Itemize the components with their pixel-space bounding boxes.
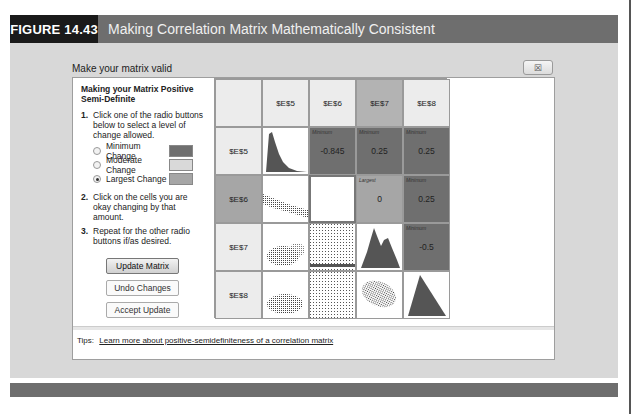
cell-value: -0.5 (419, 242, 434, 252)
row-header: $E$7 (215, 223, 262, 271)
radio-label: Moderate Change (106, 155, 169, 175)
row-header-label: $E$8 (229, 291, 248, 300)
col-header-label: $E$6 (323, 99, 342, 108)
col-header: $E$5 (262, 79, 309, 127)
histogram-cell (403, 271, 450, 319)
tips-row: Tips: Learn more about positive-semidefi… (77, 336, 333, 345)
figure-footer-bar (10, 383, 618, 397)
col-header: $E$8 (403, 79, 450, 127)
dialog-panel: Making your Matrix Positive Semi-Definit… (72, 77, 555, 360)
col-header: $E$7 (356, 79, 403, 127)
instructions-heading: Making your Matrix Positive Semi-Definit… (81, 84, 204, 104)
page-edge-rule (629, 0, 631, 414)
row-header-label: $E$5 (229, 147, 248, 156)
col-header: $E$6 (309, 79, 356, 127)
cell-tag: Minimum (312, 129, 332, 135)
step-3: 3. Repeat for the other radio buttons if… (81, 226, 204, 246)
instructions-pane: Making your Matrix Positive Semi-Definit… (73, 78, 212, 326)
step-number: 2. (81, 192, 93, 222)
histogram-cell (356, 223, 403, 271)
color-swatch-largest (169, 173, 193, 185)
step-2: 2. Click on the cells you are okay chang… (81, 192, 204, 222)
close-button[interactable]: ☒ (523, 60, 553, 75)
radio-moderate-change[interactable]: Moderate Change (93, 158, 204, 172)
color-swatch-moderate (169, 159, 193, 171)
row-header: $E$6 (215, 175, 262, 223)
cell-tag: Minimum (406, 225, 426, 231)
cell-tag: Minimum (406, 177, 426, 183)
matrix-corner (215, 79, 262, 127)
skewed-histogram (263, 128, 308, 174)
separator (73, 326, 554, 330)
scatter-plot-neg (357, 272, 402, 318)
tips-label: Tips: (77, 336, 94, 345)
scatter-plot-uniform (310, 224, 355, 270)
step-text: Click one of the radio buttons below to … (93, 110, 204, 140)
step-number: 1. (81, 110, 93, 140)
dialog-title: Make your matrix valid (72, 63, 172, 74)
matrix-cell[interactable]: Minimum -0.845 (309, 127, 356, 175)
step-text: Repeat for the other radio buttons if/as… (93, 226, 204, 246)
radio-button[interactable] (93, 147, 101, 155)
col-header-label: $E$5 (276, 99, 295, 108)
cell-value: 0.25 (371, 146, 388, 156)
cell-tag: Largest (359, 177, 376, 183)
scatter-cell (262, 223, 309, 271)
scatter-cell (262, 271, 309, 319)
cell-value: 0.25 (418, 146, 435, 156)
row-header-label: $E$6 (229, 195, 248, 204)
matrix-cell[interactable]: Largest 0 (356, 175, 403, 223)
correlation-matrix: $E$5 $E$6 $E$7 $E$8 $E$5 Minimum -0.845 … (214, 78, 447, 318)
undo-changes-button[interactable]: Undo Changes (106, 280, 179, 296)
histogram-cell (262, 127, 309, 175)
close-x-icon: ☒ (534, 63, 542, 73)
figure-header: FIGURE 14.43 Making Correlation Matrix M… (10, 15, 618, 43)
triangular-histogram (404, 272, 449, 318)
tips-link[interactable]: Learn more about positive-semidefinitene… (99, 336, 333, 345)
radio-button[interactable] (93, 161, 101, 169)
step-text: Click on the cells you are okay changing… (93, 192, 204, 222)
scatter-plot-cluster (263, 272, 308, 318)
radio-label: Largest Change (106, 174, 169, 184)
update-matrix-button[interactable]: Update Matrix (106, 258, 179, 274)
bimodal-histogram (357, 224, 402, 270)
row-header: $E$8 (215, 271, 262, 319)
matrix-cell[interactable]: Minimum 0.25 (356, 127, 403, 175)
scatter-cell (262, 175, 309, 223)
row-header: $E$5 (215, 127, 262, 175)
cell-value: -0.845 (320, 146, 344, 156)
matrix-cell[interactable]: Minimum 0.25 (403, 127, 450, 175)
step-number: 3. (81, 226, 93, 246)
radio-button-selected[interactable] (93, 175, 101, 183)
cell-tag: Minimum (359, 129, 379, 135)
step-1: 1. Click one of the radio buttons below … (81, 110, 204, 140)
cell-value: 0 (377, 194, 382, 204)
accept-update-button[interactable]: Accept Update (106, 302, 179, 318)
scatter-cell (309, 223, 356, 271)
empty-diagonal-cell (309, 175, 356, 223)
row-header-label: $E$7 (229, 243, 248, 252)
radio-largest-change[interactable]: Largest Change (93, 172, 204, 186)
scatter-plot-cluster (263, 224, 308, 270)
figure-title: Making Correlation Matrix Mathematically… (98, 15, 618, 43)
scatter-plot-uniform (310, 272, 355, 318)
scatter-cell (356, 271, 403, 319)
scatter-cell (309, 271, 356, 319)
matrix-cell[interactable]: Minimum 0.25 (403, 175, 450, 223)
figure-label: FIGURE 14.43 (10, 15, 98, 43)
matrix-cell[interactable]: Minimum -0.5 (403, 223, 450, 271)
scatter-plot-neg (263, 176, 308, 222)
cell-tag: Minimum (406, 129, 426, 135)
col-header-label: $E$8 (417, 99, 436, 108)
cell-value: 0.25 (418, 194, 435, 204)
color-swatch-minimum (169, 145, 193, 157)
col-header-label: $E$7 (370, 99, 389, 108)
